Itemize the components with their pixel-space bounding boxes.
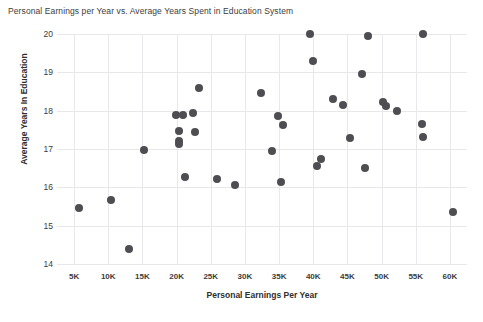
data-point[interactable] [306,30,314,38]
data-point[interactable] [329,95,337,103]
chart-title: Personal Earnings per Year vs. Average Y… [8,6,293,16]
data-point[interactable] [313,162,321,170]
data-point[interactable] [274,112,282,120]
data-point[interactable] [277,178,285,186]
gridline-vertical [245,34,246,264]
y-axis-label: Average Years In Education [19,29,29,189]
data-point[interactable] [140,146,148,154]
data-point[interactable] [393,107,401,115]
data-point[interactable] [213,175,221,183]
data-point[interactable] [189,109,197,117]
data-point[interactable] [125,245,133,253]
data-point[interactable] [179,111,187,119]
data-point[interactable] [175,127,183,135]
gridline-horizontal [57,264,467,265]
gridline-vertical [382,34,383,264]
data-point[interactable] [309,57,317,65]
data-point[interactable] [195,84,203,92]
gridline-vertical [416,34,417,264]
plot-area [57,34,467,264]
data-point[interactable] [279,121,287,129]
data-point[interactable] [181,173,189,181]
y-axis-tick-label: 14 [23,259,53,269]
data-point[interactable] [449,208,457,216]
data-point[interactable] [364,32,372,40]
data-point[interactable] [191,128,199,136]
data-point[interactable] [175,140,183,148]
gridline-horizontal [57,187,467,188]
data-point[interactable] [419,133,427,141]
data-point[interactable] [418,120,426,128]
scatter-chart: Personal Earnings per Year vs. Average Y… [0,0,483,322]
data-point[interactable] [358,70,366,78]
data-point[interactable] [346,134,354,142]
gridline-horizontal [57,111,467,112]
gridline-vertical [74,34,75,264]
data-point[interactable] [257,89,265,97]
gridline-horizontal [57,72,467,73]
data-point[interactable] [419,30,427,38]
gridline-horizontal [57,34,467,35]
gridline-vertical [177,34,178,264]
x-axis-tick-label: 60K [430,272,470,281]
gridline-vertical [211,34,212,264]
data-point[interactable] [107,196,115,204]
data-point[interactable] [361,164,369,172]
data-point[interactable] [339,101,347,109]
data-point[interactable] [75,204,83,212]
gridline-vertical [108,34,109,264]
x-axis-label: Personal Earnings Per Year [57,290,467,300]
gridline-vertical [347,34,348,264]
gridline-vertical [450,34,451,264]
y-axis-tick-label: 15 [23,221,53,231]
gridline-vertical [313,34,314,264]
data-point[interactable] [382,102,390,110]
data-point[interactable] [268,147,276,155]
gridline-vertical [279,34,280,264]
gridline-horizontal [57,226,467,227]
gridline-horizontal [57,149,467,150]
x-axis-ticks: 5K10K15K20K25K30K35K40K45K50K55K60K [57,272,467,286]
